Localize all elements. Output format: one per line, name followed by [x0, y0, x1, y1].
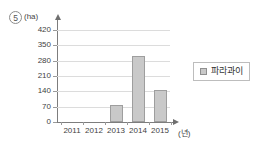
y-tick — [53, 30, 57, 31]
y-tick — [53, 107, 57, 108]
bar — [154, 90, 167, 122]
item-number-marker: 5 — [9, 11, 22, 24]
y-tick-label: 280 — [38, 57, 51, 65]
x-tick-label: 2012 — [85, 127, 103, 135]
y-axis-unit-label: (ha) — [24, 12, 38, 21]
y-tick-label: 0 — [47, 118, 51, 126]
gridline — [57, 76, 170, 77]
y-tick-label: 70 — [42, 103, 51, 111]
x-tick-label: 2011 — [63, 127, 80, 135]
bar — [132, 56, 145, 122]
y-tick-label: 210 — [38, 72, 51, 80]
legend-entry-label: 파라과이 — [211, 67, 243, 76]
gridline — [57, 30, 170, 31]
y-axis-arrow-icon — [55, 14, 61, 20]
y-tick — [53, 61, 57, 62]
bar-chart-figure: 5 (ha) 070140210280350420 20112012201320… — [0, 0, 261, 152]
x-tick-label: 2015 — [151, 127, 169, 135]
plot-area: 070140210280350420 20112012201320142015 — [57, 19, 175, 122]
y-tick-label: 350 — [38, 41, 51, 49]
x-tick-label: 2014 — [129, 127, 147, 135]
x-tick — [171, 122, 172, 125]
y-tick — [53, 122, 57, 123]
x-axis-unit-label: (년) — [178, 127, 190, 138]
y-tick — [53, 45, 57, 46]
x-tick — [83, 122, 84, 125]
gridline — [57, 61, 170, 62]
y-tick — [53, 91, 57, 92]
x-tick-label: 2013 — [107, 127, 125, 135]
x-axis-line — [57, 122, 173, 123]
x-axis-arrow-icon — [173, 119, 179, 125]
y-tick — [53, 76, 57, 77]
y-tick-label: 420 — [38, 26, 51, 34]
x-tick — [127, 122, 128, 125]
legend: 파라과이 — [193, 62, 250, 81]
gridline — [57, 45, 170, 46]
x-tick — [61, 122, 62, 125]
y-tick-label: 140 — [38, 87, 51, 95]
x-tick — [149, 122, 150, 125]
legend-swatch-icon — [200, 68, 207, 75]
bar — [110, 105, 123, 122]
x-tick — [105, 122, 106, 125]
